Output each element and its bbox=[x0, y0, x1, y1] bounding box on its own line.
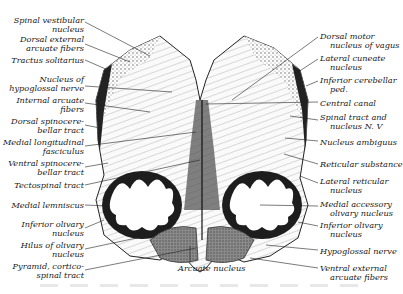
label-line: nucleus bbox=[21, 250, 84, 259]
label-line: Central canal bbox=[320, 99, 376, 108]
faint-caption-strip bbox=[40, 284, 370, 287]
label-line: olivary nucleus bbox=[320, 209, 393, 218]
label-central-canal: Central canal bbox=[320, 99, 376, 108]
label-nucleus-of-hypoglossal-nerve: Nucleus ofhypoglossal nerve bbox=[9, 75, 84, 94]
label-line: fibers bbox=[16, 105, 84, 114]
medulla-section bbox=[96, 36, 308, 272]
label-reticular-substance: Reticular substance bbox=[320, 160, 403, 169]
label-dorsal-external-arcuate-fibers: Dorsal externalarcuate fibers bbox=[20, 35, 84, 54]
label-inferior-olivary-nucleus: Inferior olivarynucleus bbox=[320, 221, 383, 240]
label-arcuate-nucleus: Arcuate nucleus bbox=[178, 264, 245, 273]
label-line: nucleus N. V bbox=[320, 122, 387, 131]
label-line: Tectospinal tract bbox=[14, 181, 84, 190]
label-medial-lemniscus: Medial lemniscus bbox=[11, 201, 84, 210]
label-medial-accessory-olivary-nucleus: Medial accessoryolivary nucleus bbox=[320, 200, 393, 219]
label-inferior-olivary-nucleus: Inferior olivarynucleus bbox=[21, 220, 84, 239]
label-ventral-spinocere-bellar-tract: Ventral spinocere-bellar tract bbox=[8, 159, 84, 178]
label-line: hypoglossal nerve bbox=[9, 84, 84, 93]
label-line: Reticular substance bbox=[320, 160, 403, 169]
label-hilus-of-olivary-nucleus: Hilus of olivarynucleus bbox=[21, 241, 84, 260]
label-line: ped. bbox=[320, 85, 397, 94]
label-hypoglossal-nerve: Hypoglossal nerve bbox=[320, 247, 397, 256]
label-line: fasciculus bbox=[3, 147, 84, 156]
label-ventral-external-arcuate-fibers: Ventral externalarcuate fibers bbox=[320, 264, 388, 283]
label-line: Medial lemniscus bbox=[11, 201, 84, 210]
label-line: nucleus of vagus bbox=[320, 41, 399, 50]
label-line: bellar tract bbox=[8, 168, 84, 177]
label-spinal-tract-and-nucleus-n-v: Spinal tract andnucleus N. V bbox=[320, 113, 387, 132]
label-line: spinal tract bbox=[13, 271, 84, 280]
label-spinal-vestibular-nucleus: Spinal vestibularnucleus bbox=[14, 16, 84, 35]
label-lateral-reticular-nucleus: Lateral reticularnucleus bbox=[320, 177, 388, 196]
label-pyramid-cortico-spinal-tract: Pyramid, cortico-spinal tract bbox=[13, 262, 84, 281]
label-dorsal-spinocere-bellar-tract: Dorsal spinocere-bellar tract bbox=[11, 117, 84, 136]
label-lateral-cuneate-nucleus: Lateral cuneatenucleus bbox=[320, 54, 385, 73]
label-line: arcuate fibers bbox=[320, 273, 388, 282]
label-line: nucleus bbox=[320, 230, 383, 239]
label-line: arcuate fibers bbox=[20, 44, 84, 53]
label-line: Nucleus ambiguus bbox=[320, 138, 397, 147]
label-tractus-solitarius: Tractus solitarius bbox=[11, 56, 84, 65]
label-line: nucleus bbox=[21, 229, 84, 238]
label-internal-arcuate-fibers: Internal arcuatefibers bbox=[16, 96, 84, 115]
label-line: Arcuate nucleus bbox=[178, 264, 245, 273]
label-medial-longitudinal-fasciculus: Medial longitudinalfasciculus bbox=[3, 138, 84, 157]
label-dorsal-motor-nucleus-of-vagus: Dorsal motornucleus of vagus bbox=[320, 32, 399, 51]
label-nucleus-ambiguus: Nucleus ambiguus bbox=[320, 138, 397, 147]
label-tectospinal-tract: Tectospinal tract bbox=[14, 181, 84, 190]
label-line: Hypoglossal nerve bbox=[320, 247, 397, 256]
label-line: nucleus bbox=[320, 63, 385, 72]
label-line: nucleus bbox=[320, 186, 388, 195]
label-line: bellar tract bbox=[11, 126, 84, 135]
label-line: Tractus solitarius bbox=[11, 56, 84, 65]
label-inferior-cerebellar-ped: Inferior cerebellarped. bbox=[320, 76, 397, 95]
